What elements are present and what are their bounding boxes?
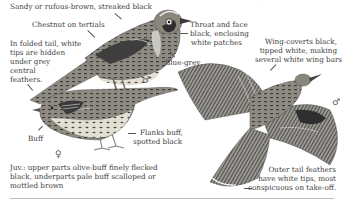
leader-flanks [128,133,136,134]
label-tertials: Chestnut on tertials [32,21,105,30]
label-upperparts: Sandy or rufous-brown, streaked black [10,3,152,12]
faint-top-text: ... [255,0,260,6]
label-blue-grey: Blue-grey [165,59,200,68]
label-buff: Buff [28,135,43,144]
female-symbol: ♀ [55,149,62,159]
male-symbol-perched: ♂ [142,75,150,85]
bottom-divider [10,198,334,199]
leader-throat [180,33,188,34]
male-symbol-flight: ♂ [332,97,340,107]
leader-outer-tail [244,188,252,189]
